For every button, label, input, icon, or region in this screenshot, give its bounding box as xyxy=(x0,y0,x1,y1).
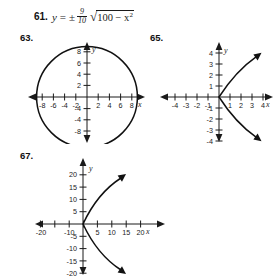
x-axis-label: x xyxy=(265,100,270,109)
x-tick-label-4: 1 xyxy=(228,101,232,110)
y-tick-label-5: -2 xyxy=(207,115,213,124)
x-axis-right-arrow-icon xyxy=(157,221,165,228)
problem-63-graph: -8 -6 -4 -2 2 4 6 8 8 6 4 2 -4 -4 -8 x y xyxy=(26,40,148,144)
problem-65-svg: -4 -3 -2 -1 1 2 3 4 4 3 2 1 -1 -2 -3 -4 … xyxy=(158,40,276,144)
problem-65: 65. xyxy=(150,32,278,144)
y-tick-label-4: -5 xyxy=(71,232,77,241)
radical-expression: √ 100 − x2 xyxy=(90,10,134,24)
x-tick-label-1: -3 xyxy=(183,101,189,110)
x-tick-label-2: -4 xyxy=(61,101,67,110)
x-tick-label-7: 4 xyxy=(261,101,265,110)
fraction-numerator: 9 xyxy=(79,8,85,16)
equation-lhs: y xyxy=(52,11,57,23)
equals-sign: = xyxy=(60,11,66,23)
radicand-text: 100 − x xyxy=(97,12,129,23)
fraction-denominator: 10 xyxy=(77,16,87,25)
y-tick-label-5: -10 xyxy=(67,244,77,253)
x-tick-label-4: 2 xyxy=(96,101,100,110)
y-tick-label-4: -1 xyxy=(207,104,213,113)
y-tick-label-7: -20 xyxy=(67,269,77,278)
curve-lower-arrow-icon xyxy=(118,266,126,274)
x-axis-left-arrow-icon xyxy=(35,221,43,228)
problem-67-svg: -20 -10 5 10 15 20 20 15 10 5 -5 -10 -15… xyxy=(34,156,170,278)
plus-minus-sign: ± xyxy=(69,11,75,23)
y-tick-label-2: 4 xyxy=(77,70,81,79)
y-tick-label-5: -4 xyxy=(75,115,81,124)
y-axis-down-arrow-icon xyxy=(80,267,87,275)
x-tick-label-2: -2 xyxy=(194,101,200,110)
x-axis-label: x xyxy=(145,227,150,236)
y-axis-up-arrow-icon xyxy=(216,42,223,50)
y-tick-label-3: 1 xyxy=(209,82,213,91)
textbook-answer-page: 61. y = ± 9 10 √ 100 − x2 63. xyxy=(0,0,278,279)
problem-61-equation: y = ± 9 10 √ 100 − x2 xyxy=(52,8,134,26)
radicand: 100 − x2 xyxy=(96,10,134,24)
x-tick-label-4: 15 xyxy=(122,228,130,237)
y-tick-label-7: -4 xyxy=(207,137,213,144)
x-tick-label-0: -8 xyxy=(39,101,45,110)
y-tick-label-6: -3 xyxy=(207,126,213,135)
curve-upper-arrow-icon xyxy=(253,53,261,61)
y-tick-label-2: 10 xyxy=(69,195,77,204)
curve-lower-arrow-icon xyxy=(253,133,261,141)
y-tick-label-2: 2 xyxy=(209,71,213,80)
y-tick-label-6: -15 xyxy=(67,257,77,266)
x-tick-label-2: 5 xyxy=(95,228,99,237)
y-axis-down-arrow-icon xyxy=(84,135,91,143)
y-tick-label-4: -4 xyxy=(75,104,81,113)
y-tick-label-1: 6 xyxy=(77,59,81,68)
x-axis-left-arrow-icon xyxy=(160,94,168,101)
y-tick-label-1: 15 xyxy=(69,183,77,192)
x-tick-label-6: 3 xyxy=(250,101,254,110)
x-tick-label-5: 2 xyxy=(239,101,243,110)
problem-63-svg: -8 -6 -4 -2 2 4 6 8 8 6 4 2 -4 -4 -8 x y xyxy=(26,40,148,144)
y-tick-label-3: 2 xyxy=(77,81,81,90)
fraction-nine-tenths: 9 10 xyxy=(77,8,87,26)
radicand-exponent: 2 xyxy=(129,10,133,18)
problem-67-number: 67. xyxy=(20,150,33,161)
problem-67: 67. xyxy=(20,150,170,278)
y-axis-up-arrow-icon xyxy=(80,158,87,166)
x-axis-left-arrow-icon xyxy=(28,94,36,101)
x-tick-label-0: -20 xyxy=(36,228,46,237)
problem-67-graph: -20 -10 5 10 15 20 20 15 10 5 -5 -10 -15… xyxy=(34,156,170,278)
y-axis-label: y xyxy=(88,164,93,173)
x-tick-label-6: 6 xyxy=(119,101,123,110)
curve-upper-arrow-icon xyxy=(118,174,126,182)
y-tick-label-0: 4 xyxy=(209,49,213,58)
y-axis-label: y xyxy=(223,46,228,55)
y-tick-label-1: 3 xyxy=(209,60,213,69)
x-tick-label-1: -6 xyxy=(50,101,56,110)
x-tick-label-5: 20 xyxy=(137,228,145,237)
problem-63: 63. xyxy=(20,32,150,144)
problem-65-graph: -4 -3 -2 -1 1 2 3 4 4 3 2 1 -1 -2 -3 -4 … xyxy=(158,40,276,144)
x-tick-label-5: 4 xyxy=(107,101,111,110)
y-tick-label-6: -8 xyxy=(75,127,81,136)
y-tick-label-0: 20 xyxy=(69,170,77,179)
problem-61-number: 61. xyxy=(34,11,48,22)
x-tick-label-7: 8 xyxy=(130,101,134,110)
x-tick-label-0: -4 xyxy=(172,101,178,110)
y-tick-label-0: 8 xyxy=(77,47,81,56)
x-tick-label-3: 10 xyxy=(108,228,116,237)
problem-61: 61. y = ± 9 10 √ 100 − x2 xyxy=(34,8,134,26)
y-tick-label-3: 5 xyxy=(73,207,77,216)
